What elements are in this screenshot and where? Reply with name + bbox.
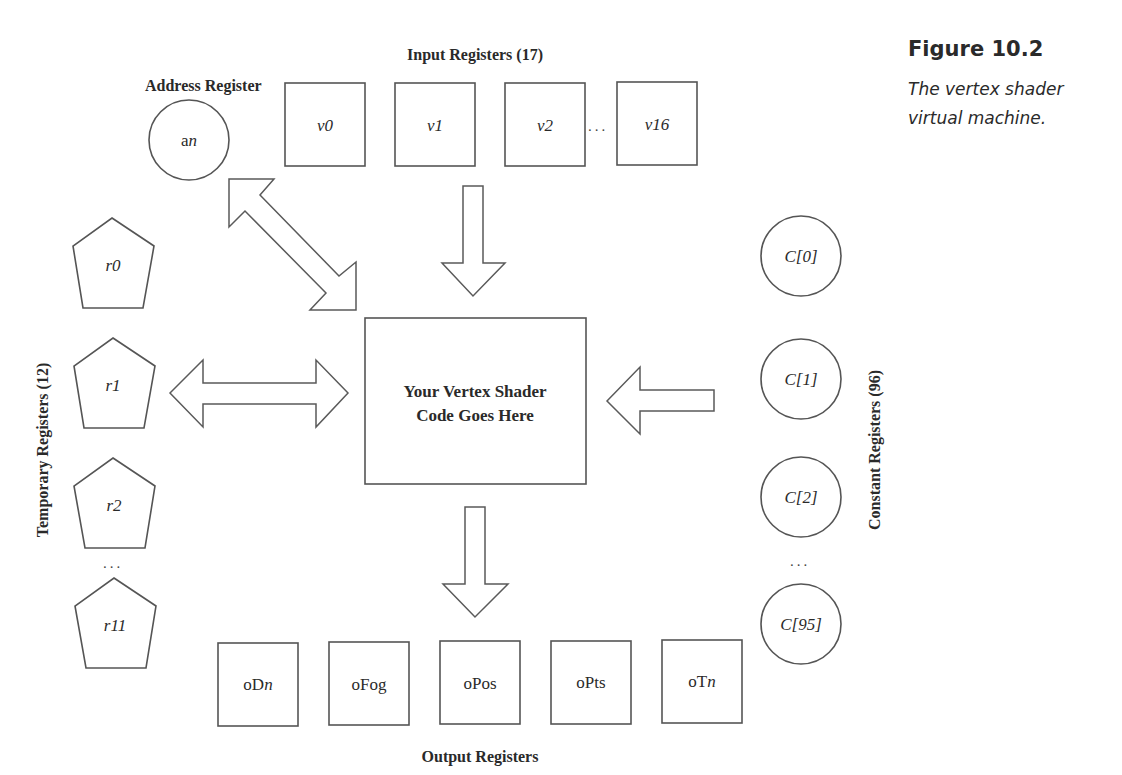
svg-text:oFog: oFog [352,675,387,694]
input-register-v1: v1 [395,83,475,166]
svg-text:v2: v2 [537,116,554,135]
temporary-registers-ellipsis: ... [103,555,123,571]
svg-text:oDn: oDn [243,675,272,694]
address-register: an [149,100,229,180]
constant-register-c1: C[1] [761,339,841,419]
temp-register-r11: r11 [75,578,156,668]
constant-register-c2: C[2] [761,457,841,537]
output-register-odn: oDn [218,643,298,726]
temp-register-r0: r0 [73,218,154,308]
output-registers-label: Output Registers [422,748,539,766]
output-register-ofog: oFog [329,642,409,725]
shader-code-line-1: Your Vertex Shader [403,382,547,401]
output-register-opos: oPos [440,641,520,724]
svg-text:r2: r2 [106,496,122,515]
svg-text:r1: r1 [105,376,120,395]
svg-text:oPos: oPos [463,674,496,693]
input-registers-ellipsis: ... [588,118,608,134]
address-register-text: an [181,131,197,150]
input-register-v16: v16 [617,82,697,165]
svg-text:v16: v16 [645,115,670,134]
input-register-v0: v0 [285,83,365,166]
horizontal-double-arrow-icon [170,360,348,427]
temp-register-r2: r2 [74,458,155,548]
svg-text:C[1]: C[1] [784,370,817,389]
arrow-down-icon [442,186,505,296]
svg-text:oTn: oTn [688,672,715,691]
temp-register-r1: r1 [74,338,155,428]
svg-text:r0: r0 [105,256,121,275]
constant-register-c95: C[95] [761,584,841,664]
constant-register-c0: C[0] [761,216,841,296]
svg-text:oPts: oPts [576,673,605,692]
output-register-opts: oPts [551,641,631,724]
figure-caption: The vertex shader virtual machine. [908,75,1108,133]
address-register-label: Address Register [145,77,262,95]
svg-text:r11: r11 [104,616,126,635]
output-register-otn: oTn [662,640,742,723]
shader-code-line-2: Code Goes Here [416,406,534,425]
shader-code-box: Your Vertex Shader Code Goes Here [365,318,586,484]
diagonal-double-arrow-icon [229,179,356,310]
arrow-left-icon [607,367,714,434]
temporary-registers-label: Temporary Registers (12) [34,363,52,537]
figure-number: Figure 10.2 [908,37,1043,61]
svg-text:v1: v1 [427,116,443,135]
constant-registers-ellipsis: ... [790,553,810,569]
svg-text:C[95]: C[95] [780,615,822,634]
input-register-v2: v2 [505,83,585,166]
svg-text:C[2]: C[2] [784,488,817,507]
svg-text:C[0]: C[0] [784,247,817,266]
svg-text:v0: v0 [317,116,334,135]
input-registers-label: Input Registers (17) [407,46,543,64]
arrow-down-output-icon [443,507,508,617]
constant-registers-label: Constant Registers (96) [866,370,884,530]
